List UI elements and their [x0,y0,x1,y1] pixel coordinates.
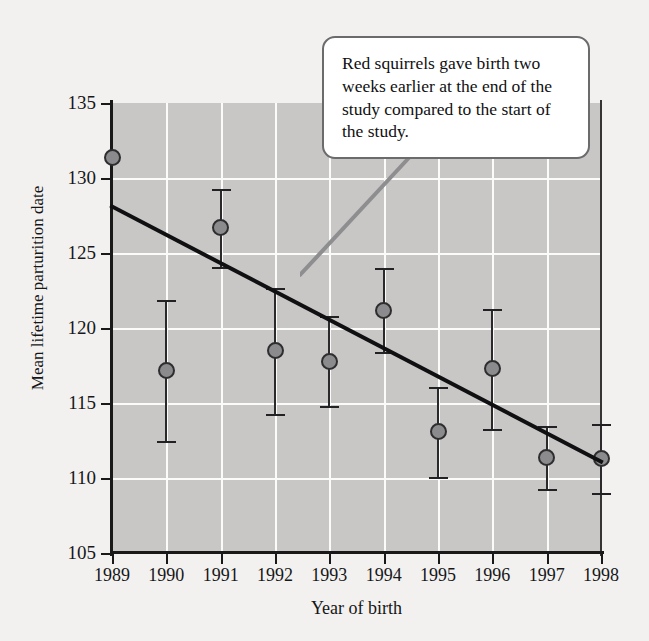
error-bar-cap [429,387,448,389]
x-axis-tick [492,553,494,564]
plot-area [112,103,601,553]
x-axis-tick [112,553,114,564]
x-axis-tick [329,553,331,564]
x-axis-tick [601,553,603,564]
error-bar-cap [483,309,502,311]
y-axis-tick-label: 120 [44,318,96,337]
data-point [158,362,175,379]
y-axis-tick [101,553,112,555]
annotation-callout: Red squirrels gave birth two weeks earli… [322,36,590,159]
error-bar-cap [538,489,557,491]
error-bar-cap [375,352,394,354]
y-axis-tick [101,103,112,105]
data-point [321,353,338,370]
x-axis-tick-label: 1990 [136,566,196,584]
error-bar-cap [483,429,502,431]
y-axis-tick [101,253,112,255]
error-bar-cap [157,441,176,443]
y-axis-tick [101,328,112,330]
x-axis-line [110,551,604,554]
chart-figure: 1351301251201151101051989199019911992199… [0,0,649,641]
x-axis-tick [547,553,549,564]
y-axis-tick-label: 110 [44,468,96,487]
gridline-horizontal [112,253,601,255]
y-axis-title: Mean lifetime parturition date [28,158,48,418]
x-axis-tick-label: 1991 [191,566,251,584]
y-axis-tick [101,178,112,180]
gridline-horizontal [112,403,601,405]
error-bar-cap [266,288,285,290]
y-axis-tick-label: 105 [44,543,96,562]
error-bar-cap [320,316,339,318]
y-axis-tick [101,478,112,480]
x-axis-tick-label: 1996 [462,566,522,584]
y-axis-tick-label: 125 [44,243,96,262]
data-point [430,423,447,440]
error-bar-cap [266,414,285,416]
x-axis-tick-label: 1998 [571,566,631,584]
data-point [593,450,610,467]
x-axis-tick-label: 1993 [299,566,359,584]
x-axis-tick-label: 1992 [245,566,305,584]
data-point [484,360,501,377]
error-bar-cap [212,267,231,269]
y-axis-tick-label: 135 [44,93,96,112]
data-point [104,149,121,166]
x-axis-tick-label: 1997 [517,566,577,584]
error-bar-cap [212,189,231,191]
gridline-horizontal [112,328,601,330]
error-bar-cap [538,426,557,428]
error-bar-cap [320,406,339,408]
annotation-text: Red squirrels gave birth two weeks earli… [342,53,552,141]
gridline-horizontal [112,478,601,480]
x-axis-tick [275,553,277,564]
x-axis-tick-label: 1989 [82,566,142,584]
x-axis-title: Year of birth [112,598,601,619]
x-axis-tick [221,553,223,564]
error-bar-cap [157,300,176,302]
error-bar-cap [592,424,611,426]
y-axis-tick-label: 115 [44,393,96,412]
x-axis-tick-label: 1995 [408,566,468,584]
data-point [375,302,392,319]
x-axis-tick [166,553,168,564]
error-bar-cap [375,268,394,270]
data-point [267,342,284,359]
x-axis-tick-label: 1994 [354,566,414,584]
y-axis-tick-label: 130 [44,168,96,187]
y-axis-tick [101,403,112,405]
error-bar-cap [429,477,448,479]
x-axis-tick [438,553,440,564]
gridline-horizontal [112,178,601,180]
data-point [538,449,555,466]
x-axis-tick [384,553,386,564]
error-bar-cap [592,493,611,495]
